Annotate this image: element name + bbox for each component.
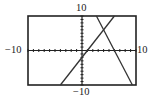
x-min-label: −10 (5, 45, 21, 56)
x-max-label: 10 (137, 45, 148, 56)
y-min-label: −10 (73, 87, 89, 98)
graph-window (0, 0, 149, 100)
y-max-label: 10 (76, 3, 87, 14)
